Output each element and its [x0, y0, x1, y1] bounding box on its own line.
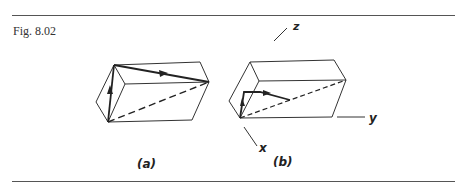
figure-drawing: (a) z y x (b) [0, 0, 460, 185]
x-axis-label: x [258, 141, 268, 155]
box-b-edge [259, 80, 346, 81]
z-axis-line [274, 28, 287, 41]
z-axis-label: z [292, 20, 300, 33]
box-b-outline [229, 60, 346, 118]
box-b-edge [250, 62, 259, 81]
vector-b-path [240, 92, 290, 118]
box-a-edge [114, 65, 125, 84]
vector-b-diagonal [240, 80, 346, 118]
x-axis-line [244, 127, 257, 146]
panel-a-label: (a) [137, 157, 156, 171]
panel-b-label: (b) [273, 155, 293, 169]
panel-b-box [229, 60, 346, 118]
panel-b-vectors [240, 80, 346, 118]
panel-a-vectors [108, 65, 209, 122]
arrowhead-icon [159, 70, 168, 77]
box-a-edge [125, 82, 209, 84]
y-axis-label: y [369, 111, 378, 125]
